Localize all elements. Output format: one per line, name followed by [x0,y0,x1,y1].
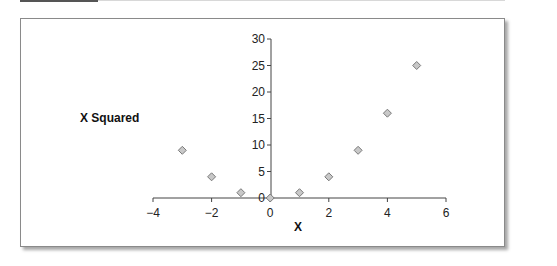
diamond-marker [178,146,186,154]
y-tick-label: 0 [258,191,265,205]
y-tick-label: 30 [252,32,266,46]
diamond-marker [325,173,333,181]
y-tick-label: 20 [252,85,266,99]
x-tick-label: 2 [325,206,332,220]
y-tick-label: 10 [252,138,266,152]
y-axis-title: X Squared [80,111,139,125]
diamond-marker [208,173,216,181]
diamond-marker [413,62,421,70]
diamond-marker [266,194,274,202]
x-tick-label: 0 [267,206,274,220]
diamond-marker [237,189,245,197]
x-tick-label: 4 [384,206,391,220]
scatter-chart: −4−20246051015202530 X Squared X [0,0,557,266]
y-tick-label: 5 [258,165,265,179]
x-tick-label: −4 [146,206,160,220]
x-axis-title: X [294,220,302,234]
y-tick-label: 25 [252,59,266,73]
y-tick-label: 15 [252,112,266,126]
x-tick-label: 6 [443,206,450,220]
diamond-marker [383,109,391,117]
x-tick-label: −2 [205,206,219,220]
diamond-marker [354,146,362,154]
data-points [178,62,420,203]
diamond-marker [296,189,304,197]
